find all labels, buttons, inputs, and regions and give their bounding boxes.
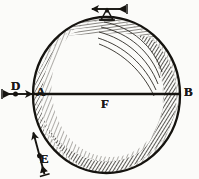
arrow-top-pivot xyxy=(105,9,109,13)
label-F: F xyxy=(101,97,109,110)
arrow-E-nock xyxy=(40,174,50,177)
label-A: A xyxy=(36,85,45,98)
engraving-figure: D A F B E xyxy=(0,0,199,179)
label-E: E xyxy=(40,152,49,165)
label-D: D xyxy=(11,79,20,92)
arrow-top-fletching xyxy=(118,5,126,13)
label-B: B xyxy=(184,85,193,98)
arrow-D-fletching xyxy=(3,90,11,98)
figure-canvas xyxy=(0,0,199,179)
